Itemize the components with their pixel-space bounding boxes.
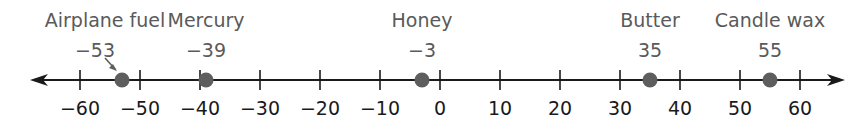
point-value-label: 55 (758, 41, 782, 60)
point-name-label: Candle wax (715, 11, 825, 30)
data-point (763, 73, 778, 88)
tick-label: 10 (488, 99, 512, 118)
tick-label: −30 (240, 99, 280, 118)
point-name-label: Airplane fuel (45, 11, 166, 30)
point-value-label: −3 (408, 41, 436, 60)
point-name-label: Honey (392, 11, 453, 30)
tick-label: 40 (668, 99, 692, 118)
tick-label: −10 (360, 99, 400, 118)
point-value-label: −53 (75, 41, 115, 60)
tick-label: −20 (300, 99, 340, 118)
data-point (199, 73, 214, 88)
tick-label: −50 (120, 99, 160, 118)
tick-label: 30 (608, 99, 632, 118)
data-point (415, 73, 430, 88)
point-name-label: Butter (620, 11, 679, 30)
data-point (115, 73, 130, 88)
tick-label: 50 (728, 99, 752, 118)
tick-label: −60 (60, 99, 100, 118)
tick-label: −40 (180, 99, 220, 118)
tick-label: 0 (434, 99, 446, 118)
number-line-diagram: −60−50−40−30−20−100102030405060 Airplane… (0, 0, 867, 129)
tick-label: 20 (548, 99, 572, 118)
data-point (643, 73, 658, 88)
point-value-label: 35 (638, 41, 662, 60)
tick-label: 60 (788, 99, 812, 118)
point-name-label: Mercury (167, 11, 244, 30)
point-value-label: −39 (186, 41, 226, 60)
pointer-arrow-icon (109, 64, 117, 71)
